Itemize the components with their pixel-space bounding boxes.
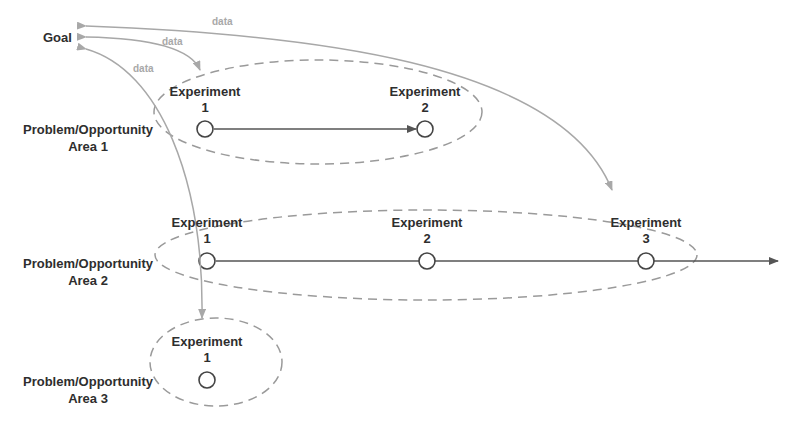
goal-label: Goal [43,30,72,45]
area-2-experiment-3-node[interactable] [638,253,654,269]
area-3-experiment-1-node[interactable] [199,372,215,388]
area-1-label-line2: Area 1 [15,138,161,155]
area-2-label: Problem/Opportunity Area 2 [15,255,161,289]
data-label-area-1: data [162,36,183,47]
area-3-experiment-1-label: Experiment 1 [167,334,247,366]
area-1-label-line1: Problem/Opportunity [15,121,161,138]
area-1-experiment-2-label: Experiment 2 [385,84,465,116]
diagram-canvas [0,0,791,426]
area-2-experiment-1-label: Experiment 1 [167,215,247,247]
area-3-label-line2: Area 3 [15,390,161,407]
area-2-experiment-3-label: Experiment 3 [606,215,686,247]
data-label-area-2: data [212,16,233,27]
area-3-label: Problem/Opportunity Area 3 [15,373,161,407]
area-1-label: Problem/Opportunity Area 1 [15,121,161,155]
area-2-experiment-2-node[interactable] [419,253,435,269]
area-1-experiment-1-label: Experiment 1 [165,84,245,116]
area-3-label-line1: Problem/Opportunity [15,373,161,390]
area-1-experiment-1-node[interactable] [197,121,213,137]
area-1-experiment-2-node[interactable] [417,121,433,137]
area-2-label-line1: Problem/Opportunity [15,255,161,272]
area-2-experiment-2-label: Experiment 2 [387,215,467,247]
area-2-label-line2: Area 2 [15,272,161,289]
data-label-area-3: data [133,63,154,74]
